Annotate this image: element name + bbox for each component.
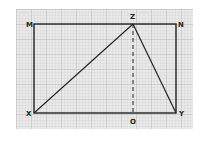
label-M: M [26, 21, 33, 29]
label-X: X [26, 110, 32, 118]
label-O: O [130, 118, 136, 126]
label-N: N [178, 21, 184, 29]
label-Y: Y [178, 110, 185, 118]
geometry-diagram: M Z N X Y O [0, 0, 201, 143]
label-Z: Z [130, 13, 135, 21]
grid-lines [16, 9, 193, 129]
